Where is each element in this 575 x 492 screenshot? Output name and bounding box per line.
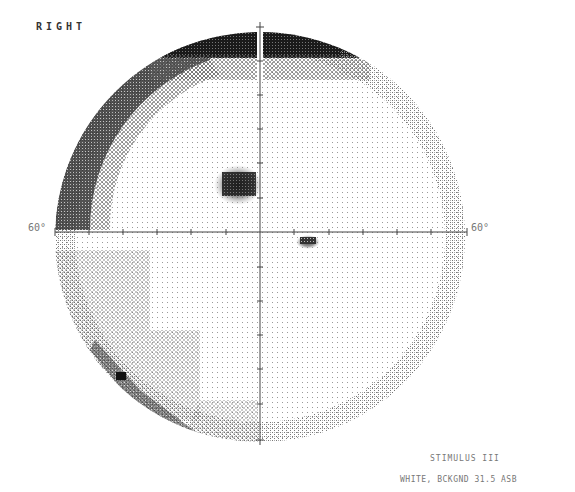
blind-spot (300, 237, 316, 244)
inferotemporal-dense-spot (116, 372, 126, 380)
paracentral-scotoma (222, 172, 256, 196)
superonasal-transition (340, 40, 400, 75)
visual-field-plot (0, 0, 575, 492)
